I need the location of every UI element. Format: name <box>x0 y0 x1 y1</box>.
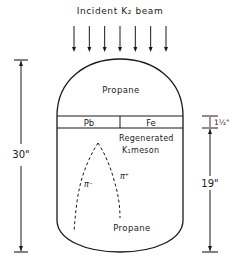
lower-dim-arrow-down <box>208 246 212 251</box>
plate-thickness-label: 1½" <box>214 118 230 127</box>
beam-arrow-head <box>72 47 76 52</box>
k1-meson-label: K₁meson <box>122 146 159 155</box>
plate-pb-label: Pb <box>84 118 95 128</box>
total-dim-arrow-down <box>19 246 23 251</box>
beam-arrow-head <box>118 47 122 52</box>
pi-minus-label: π⁻ <box>84 180 93 189</box>
plate-fe-label: Fe <box>146 118 156 128</box>
lower-propane-label: Propane <box>113 223 151 233</box>
beam-title: Incident K₂ beam <box>77 6 164 16</box>
beam-arrow-head <box>164 47 168 52</box>
lower-dim-arrow-up <box>208 129 212 134</box>
lower-height-label: 19" <box>201 178 218 189</box>
total-dim-arrow-up <box>19 61 23 66</box>
pi-plus-track <box>98 143 120 218</box>
total-height-label: 30" <box>12 149 29 160</box>
beam-arrow-head <box>87 47 91 52</box>
upper-propane-label: Propane <box>102 85 140 95</box>
regenerated-label: Regenerated <box>119 134 174 143</box>
beam-arrows <box>72 26 168 52</box>
beam-arrow-head <box>133 47 137 52</box>
beam-arrow-head <box>103 47 107 52</box>
diagram: Incident K₂ beam Pb Fe Propane Propane R… <box>0 0 237 271</box>
beam-arrow-head <box>149 47 153 52</box>
pi-plus-label: π⁺ <box>120 172 129 181</box>
